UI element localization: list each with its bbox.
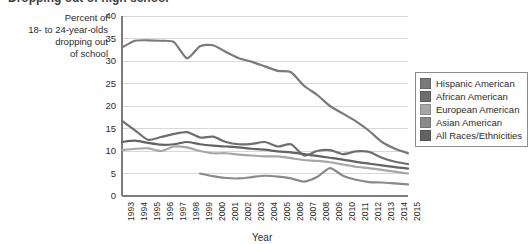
legend-swatch-icon	[420, 78, 431, 89]
x-axis-tick-label: 1998	[191, 202, 201, 221]
y-axis-tick-label: 25	[90, 78, 116, 89]
legend-swatch-icon	[420, 91, 431, 102]
gridlines	[122, 16, 408, 196]
x-axis-tick-label: 2002	[243, 202, 253, 221]
legend-item[interactable]: European American	[420, 103, 522, 116]
data-series-group	[122, 40, 408, 184]
y-axis-tick-label: 40	[90, 10, 116, 21]
legend-item[interactable]: All Races/Ethnicities	[420, 129, 522, 142]
series-line	[200, 168, 408, 184]
x-axis-tick-label: 1994	[139, 202, 149, 221]
x-axis-tick-label: 2008	[321, 202, 331, 221]
x-axis-tick-label: 2013	[386, 202, 396, 221]
y-axis-tick-label: 10	[90, 145, 116, 156]
legend-item[interactable]: Hispanic American	[420, 77, 522, 90]
y-axis-tick-label: 30	[90, 55, 116, 66]
x-axis-tick-label: 2005	[282, 202, 292, 221]
legend-item-label: Hispanic American	[436, 78, 515, 89]
x-axis-tick-label: 2010	[347, 202, 357, 221]
y-axis-tick-label: 35	[90, 33, 116, 44]
legend-item-label: Asian American	[436, 117, 502, 128]
legend-item-label: All Races/Ethnicities	[436, 130, 522, 141]
x-axis-tick-label: 2011	[360, 203, 370, 221]
chart-legend: Hispanic American African American Europ…	[415, 72, 528, 147]
x-axis-tick-label: 1993	[126, 202, 136, 221]
legend-swatch-icon	[420, 130, 431, 141]
x-axis-tick-label: 1997	[178, 202, 188, 221]
x-axis-tick-label: 2004	[269, 202, 279, 221]
x-axis-tick-label: 2001	[230, 202, 240, 221]
y-axis-tick-label: 20	[90, 100, 116, 111]
legend-item-label: African American	[436, 91, 508, 102]
x-axis-tick-label: 2006	[295, 202, 305, 221]
legend-swatch-icon	[420, 104, 431, 115]
x-axis-tick-label: 2007	[308, 202, 318, 221]
legend-item-label: European American	[436, 104, 519, 115]
x-axis-tick-label: 2015	[412, 202, 422, 221]
x-axis-tick-label: 2003	[256, 202, 266, 221]
x-axis-tick-label: 2012	[373, 202, 383, 221]
x-axis-tick-label: 2014	[399, 202, 409, 221]
x-axis-tick-label: 1995	[152, 202, 162, 221]
y-axis-tick-label: 15	[90, 123, 116, 134]
x-axis-tick-label: 2000	[217, 202, 227, 221]
y-axis-tick-label: 0	[90, 190, 116, 201]
legend-item[interactable]: Asian American	[420, 116, 522, 129]
legend-item[interactable]: African American	[420, 90, 522, 103]
x-axis-tick-label: 1999	[204, 202, 214, 221]
x-axis-label: Year	[252, 232, 272, 243]
series-line	[122, 141, 408, 169]
y-axis-tick-label: 5	[90, 168, 116, 179]
x-axis-tick-label: 2009	[334, 202, 344, 221]
chart-page: Dropping out of high school Percent of 1…	[0, 0, 528, 244]
legend-swatch-icon	[420, 117, 431, 128]
x-axis-tick-label: 1996	[165, 202, 175, 221]
